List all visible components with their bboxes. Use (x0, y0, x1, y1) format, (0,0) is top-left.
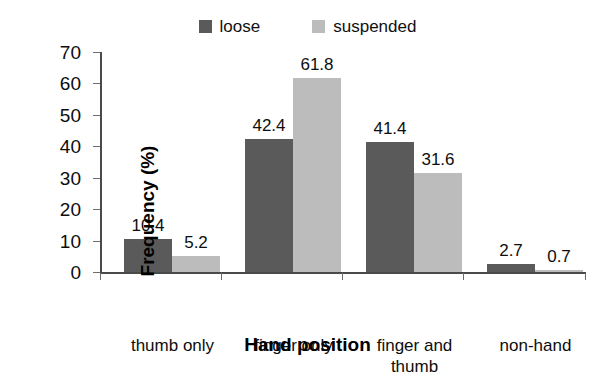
y-tick-mark: 30 (93, 178, 100, 179)
y-tick-label: 20 (60, 200, 81, 219)
x-tick-mark (221, 273, 222, 280)
bar-suspended-non-hand: 0.7 (535, 270, 583, 272)
legend-label-suspended: suspended (333, 18, 416, 35)
legend-label-loose: loose (220, 18, 261, 35)
y-tick-mark: 20 (93, 209, 100, 210)
y-tick-label: 60 (60, 74, 81, 93)
bar-suspended-finger-only: 61.8 (293, 78, 341, 272)
plot-area: 70 60 50 40 30 20 10 0 10.4 (100, 52, 586, 273)
x-axis-title: Hand position (0, 334, 615, 356)
bar-value-label: 61.8 (300, 56, 333, 73)
bar-suspended-thumb-only: 5.2 (172, 256, 220, 272)
y-tick-mark: 50 (93, 115, 100, 116)
x-tick-mark (585, 273, 586, 280)
y-axis-title: Frequency (%) (137, 101, 159, 321)
y-tick-label: 10 (60, 231, 81, 250)
y-tick-label: 30 (60, 168, 81, 187)
bar-value-label: 2.7 (499, 242, 523, 259)
legend-entry-loose: loose (199, 18, 261, 35)
suspended-swatch-icon (312, 20, 325, 33)
y-tick-mark: 60 (93, 83, 100, 84)
x-axis-line (100, 272, 586, 274)
legend-entry-suspended: suspended (312, 18, 416, 35)
chart-legend: loose suspended (0, 18, 615, 35)
x-tick-mark (342, 273, 343, 280)
bar-chart: loose suspended 70 60 50 40 30 20 10 (0, 0, 615, 373)
bar-loose-non-hand: 2.7 (487, 264, 535, 273)
bar-loose-finger-and-thumb: 41.4 (366, 142, 414, 272)
x-category-line: thumb (354, 356, 475, 373)
y-tick-mark: 40 (93, 146, 100, 147)
y-tick-mark: 0 (93, 272, 100, 273)
bar-value-label: 42.4 (252, 117, 285, 134)
loose-swatch-icon (199, 20, 212, 33)
bar-value-label: 5.2 (184, 234, 208, 251)
x-tick-mark (100, 273, 101, 280)
y-tick-label: 70 (60, 43, 81, 62)
y-tick-mark: 10 (93, 241, 100, 242)
x-tick-mark (463, 273, 464, 280)
bar-value-label: 41.4 (373, 120, 406, 137)
bar-suspended-finger-and-thumb: 31.6 (414, 173, 462, 272)
y-tick-mark: 70 (93, 52, 100, 53)
bar-loose-finger-only: 42.4 (245, 139, 293, 272)
bar-value-label: 31.6 (421, 151, 454, 168)
y-tick-label: 0 (70, 263, 81, 282)
y-tick-label: 40 (60, 137, 81, 156)
y-axis-line (100, 52, 102, 273)
y-tick-label: 50 (60, 105, 81, 124)
bar-value-label: 0.7 (547, 248, 571, 265)
